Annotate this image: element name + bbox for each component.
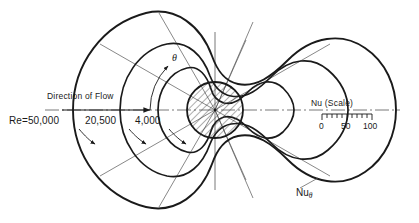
nu-theta-curve-label: Nuθ: [296, 188, 312, 200]
reynolds-4000-label: 4,000: [135, 116, 161, 126]
flow-direction-label: Direction of Flow: [47, 92, 114, 101]
nu-scale-title: Nu (Scale): [311, 99, 353, 108]
scale-tick-0: 0: [319, 122, 324, 131]
reynolds-20500-label: 20,500: [85, 116, 116, 126]
theta-angle-label: θ: [172, 53, 177, 63]
reynolds-50000-label: Re=50,000: [9, 116, 59, 126]
scale-tick-50: 50: [341, 122, 350, 131]
nu-theta-subscript: θ: [309, 191, 313, 200]
cylinder-cross-section: [187, 82, 243, 138]
nusselt-polar-figure: [0, 0, 419, 223]
scale-tick-100: 100: [363, 122, 377, 131]
nu-scale-ruler: [322, 114, 372, 120]
nu-theta-base: Nu: [296, 187, 309, 198]
